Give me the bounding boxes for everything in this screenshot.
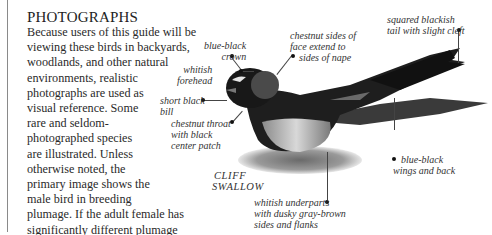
leader-line — [327, 152, 328, 200]
label-face: chestnut sides of face extend to sides o… — [290, 30, 356, 63]
leader-line — [242, 71, 254, 72]
label-crown: blue-black crown — [204, 40, 246, 62]
label-throat: chestnut throat with black center patch — [171, 118, 231, 151]
label-tail: squared blackish tail with slight cleft — [387, 14, 465, 36]
figure-caption: CLIFF SWALLOW — [212, 170, 264, 192]
label-bill: short black bill — [160, 95, 205, 117]
annotation-dot — [239, 69, 243, 73]
label-underparts: whitish underparts with dusky gray-brown… — [254, 197, 346, 230]
label-wings: blue-black wings and back — [393, 154, 455, 176]
label-forehead: whitish forehead — [177, 64, 212, 86]
leader-line — [203, 100, 227, 101]
leader-line — [394, 98, 395, 130]
